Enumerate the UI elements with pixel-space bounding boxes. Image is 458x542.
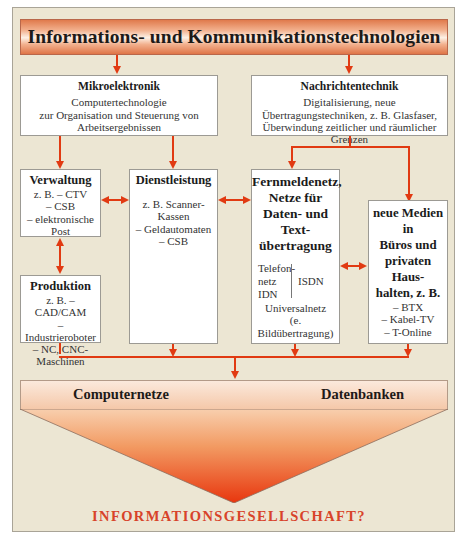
connector-line	[225, 199, 244, 201]
box-text: – T-Online	[369, 326, 447, 338]
box-mikroelektronik: Mikroelektronik Computertechnologie zur …	[20, 75, 218, 136]
box-text: Übertragungstechniken, z. B. Glasfaser,	[252, 109, 447, 121]
box-nachrichtentechnik: Nachrichtentechnik Digitalisierung, neue…	[251, 75, 448, 136]
box-title: halten, z. B.	[369, 285, 447, 301]
arrow-down-icon	[56, 161, 64, 169]
box-title: Produktion	[21, 279, 100, 294]
isdn-label: ISDN	[298, 275, 324, 287]
box-dienstleistung: Dienstleistung z. B. Scanner- Kassen – G…	[129, 169, 218, 344]
box-text: Computertechnologie	[21, 96, 217, 108]
datenbanken-label: Datenbanken	[321, 386, 404, 403]
box-title: Nachrichtentechnik	[252, 81, 447, 93]
arrow-right-icon	[243, 196, 251, 204]
box-text: – Geldautomaten	[130, 223, 217, 235]
arrow-right-icon	[121, 196, 129, 204]
box-title: übertragung	[252, 238, 339, 254]
box-produktion: Produktion z. B. – CAD/CAM – Industriero…	[20, 275, 101, 343]
box-title: Büros und	[369, 237, 447, 253]
connector-line	[59, 136, 61, 162]
connector-line	[234, 357, 236, 372]
box-text: zur Organisation und Steuerung von	[21, 109, 217, 121]
box-text: – Kabel-TV	[369, 313, 447, 325]
footer-title: INFORMATIONSGESELLSCHAFT?	[0, 508, 458, 525]
box-title: Mikroelektronik	[21, 81, 217, 93]
box-text: z. B. Scanner-	[130, 198, 217, 210]
box-text: – Industrieroboter	[21, 319, 100, 344]
box-text: – CSB	[130, 235, 217, 247]
box-text: z. B. – CAD/CAM	[21, 294, 100, 319]
box-title: privaten Haus-	[369, 253, 447, 285]
arrow-down-icon	[56, 266, 64, 274]
title-banner: Informations- und Kommunikationstechnolo…	[20, 19, 448, 55]
box-title: Netze für	[252, 190, 339, 206]
arrow-down-icon	[169, 161, 177, 169]
box-title: Dienstleistung	[130, 173, 217, 188]
connector-line	[291, 146, 293, 162]
connector-line	[291, 146, 409, 148]
box-title: Verwaltung	[21, 173, 100, 188]
box-text: (e. Bildübertragung)	[252, 314, 339, 339]
box-text: Universalnetz	[252, 302, 339, 314]
box-text: – BTX	[369, 301, 447, 313]
arrow-down-icon	[345, 66, 353, 74]
box-fernmeldenetz: Fernmeldenetz, Netze für Daten- und Text…	[251, 169, 340, 344]
box-text: – CSB	[21, 200, 100, 212]
arrow-down-icon	[113, 66, 121, 74]
box-text: Kassen	[130, 210, 217, 222]
connector-line	[59, 245, 61, 267]
computernetze-label: Computernetze	[73, 386, 169, 403]
connector-line	[59, 343, 61, 354]
box-text: IDN	[258, 288, 278, 300]
bottom-bar: Computernetze Datenbanken	[20, 380, 448, 410]
box-text: Post	[21, 225, 100, 237]
box-title: Fernmeldenetz,	[252, 174, 339, 190]
box-text: – elektronische	[21, 213, 100, 225]
box-text: Arbeitsergebnissen	[21, 121, 217, 133]
box-title: Daten- und Text-	[252, 206, 339, 238]
connector-line	[172, 136, 174, 162]
box-text: netz	[258, 275, 276, 287]
funnel-triangle	[20, 409, 448, 503]
network-group: Telefon- netz IDN ISDN	[252, 262, 339, 302]
arrow-down-icon	[231, 371, 239, 379]
box-text: Digitalisierung, neue	[252, 96, 447, 108]
arrow-down-icon	[288, 161, 296, 169]
connector-line	[108, 199, 122, 201]
box-title: neue Medien in	[369, 205, 447, 237]
box-neue-medien: neue Medien in Büros und privaten Haus- …	[368, 200, 448, 344]
arrow-right-icon	[359, 262, 367, 270]
divider	[291, 264, 292, 298]
box-text: z. B. – CTV	[21, 188, 100, 200]
box-text: Telefon-	[258, 262, 295, 274]
box-verwaltung: Verwaltung z. B. – CTV – CSB – elektroni…	[20, 169, 101, 237]
connector-line	[408, 146, 410, 195]
diagram-title: Informations- und Kommunikationstechnolo…	[28, 26, 441, 48]
